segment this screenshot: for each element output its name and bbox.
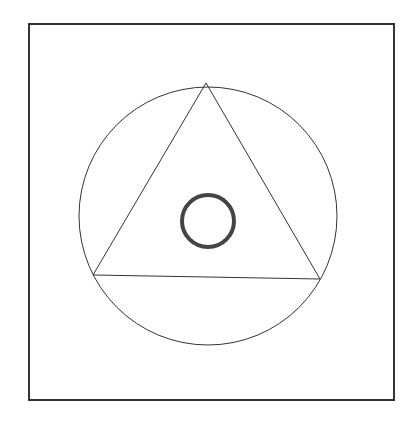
square-frame [29,24,394,400]
diagram-canvas [0,0,417,428]
inscribed-triangle [93,83,320,279]
center-ring [182,195,234,247]
circumscribed-circle [79,87,337,345]
